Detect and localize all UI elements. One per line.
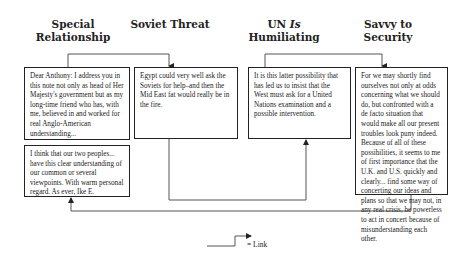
link-egypt-to-latter <box>169 139 306 200</box>
heading-special-relationship: Special Relationship <box>25 18 121 44</box>
legend-link-sample-icon <box>207 236 251 246</box>
legend-label: = Link <box>247 240 267 249</box>
box-egypt: Egypt could very well ask the Soviets fo… <box>134 67 238 139</box>
box-i-think: I think that our two peoples... have thi… <box>24 145 130 197</box>
heading-line: UN Is <box>238 18 330 31</box>
heading-text: UN <box>267 18 289 30</box>
box-dear-anthony: Dear Anthony: I address you in this note… <box>24 67 130 140</box>
box-for-we-may: For we may shortly find ourselves not on… <box>355 67 448 195</box>
heading-un-is-humiliating: UN Is Humiliating <box>238 18 330 44</box>
heading-line: Humiliating <box>238 31 330 44</box>
link-latter-to-for-we-may <box>265 54 382 67</box>
box-latter-possibility: It is this latter possibility that has l… <box>248 67 351 139</box>
link-dear-anthony-to-egypt <box>68 54 169 67</box>
heading-line: Special <box>25 18 121 31</box>
heading-italic-text: Is <box>290 18 301 30</box>
heading-line: Security <box>340 31 436 44</box>
heading-line: Savvy to <box>340 18 436 31</box>
link-for-we-may-to-i-think <box>71 195 411 211</box>
heading-savvy-to-security: Savvy to Security <box>340 18 436 44</box>
heading-soviet-threat: Soviet Threat <box>124 18 216 31</box>
heading-line: Soviet Threat <box>124 18 216 31</box>
heading-line: Relationship <box>25 31 121 44</box>
